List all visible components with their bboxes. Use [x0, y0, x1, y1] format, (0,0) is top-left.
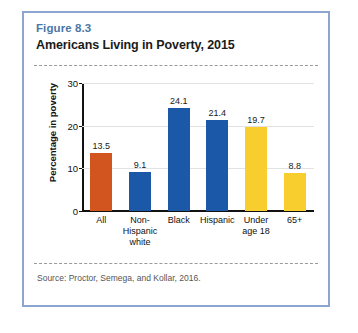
bar-value-label: 13.5 [93, 141, 111, 151]
x-tick-line: Under [244, 215, 269, 225]
x-tick-line: age 18 [242, 226, 270, 236]
figure-number: Figure 8.3 [36, 22, 91, 34]
bar: 8.8 [284, 173, 306, 211]
chart-plot-area: Percentage in poverty 0102030 13.59.124.… [34, 75, 322, 260]
y-axis-line [82, 83, 84, 211]
gridline [82, 126, 314, 127]
bar: 24.1 [168, 108, 190, 211]
y-tick-mark [79, 211, 82, 212]
y-tick-label: 20 [67, 120, 78, 131]
x-tick-line: Hispanic [123, 226, 158, 236]
gridline [82, 168, 314, 169]
bar: 9.1 [129, 172, 151, 211]
y-tick-mark [79, 83, 82, 84]
bar-value-label: 24.1 [170, 96, 188, 106]
bar-value-label: 9.1 [134, 160, 147, 170]
source-note: Source: Proctor, Semega, and Kollar, 201… [37, 273, 201, 283]
gridline [82, 83, 314, 84]
figure-title: Americans Living in Poverty, 2015 [36, 38, 235, 52]
y-axis-title: Percentage in poverty [47, 73, 58, 193]
x-tick-line: Black [168, 215, 190, 225]
y-tick-mark [79, 126, 82, 127]
divider-top [34, 65, 318, 66]
bar: 13.5 [90, 153, 112, 211]
plot-frame: 0102030 13.59.124.121.419.78.8 AllNon-Hi… [82, 83, 314, 211]
bar: 19.7 [245, 127, 267, 211]
x-tick-line: white [129, 237, 150, 247]
bar-value-label: 19.7 [247, 115, 265, 125]
x-tick-line: Non- [130, 215, 150, 225]
y-tick-mark [79, 168, 82, 169]
bar: 21.4 [206, 120, 228, 211]
figure-card: Figure 8.3 Americans Living in Poverty, … [22, 11, 330, 307]
y-tick-label: 30 [67, 78, 78, 89]
x-tick-label: 65+ [268, 215, 322, 226]
y-tick-label: 10 [67, 163, 78, 174]
divider-bottom [34, 263, 318, 264]
x-tick-line: All [96, 215, 106, 225]
x-tick-line: 65+ [287, 215, 302, 225]
bar-value-label: 21.4 [209, 108, 227, 118]
x-axis-line [82, 210, 314, 212]
bar-value-label: 8.8 [288, 161, 301, 171]
